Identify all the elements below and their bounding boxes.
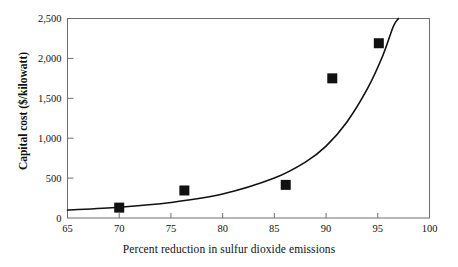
data-point-marker — [281, 180, 291, 190]
y-axis-title: Capital cost ($/kilowatt) — [17, 16, 29, 206]
x-axis-tick-labels: 65707580859095100 — [62, 223, 437, 234]
x-tick-label: 65 — [62, 223, 73, 234]
x-tick-label: 100 — [422, 223, 438, 234]
y-tick-label: 2,500 — [38, 13, 62, 24]
data-point-marker — [374, 38, 384, 48]
scatter-plot-svg: 65707580859095100 05001,0001,5002,0002,5… — [0, 0, 458, 267]
x-axis-ticks — [119, 213, 378, 218]
y-tick-label: 2,000 — [38, 53, 62, 64]
y-tick-label: 1,500 — [38, 93, 62, 104]
x-tick-label: 75 — [166, 223, 177, 234]
plot-frame — [68, 19, 430, 219]
y-axis-tick-labels: 05001,0001,5002,0002,500 — [38, 13, 62, 224]
x-tick-label: 80 — [217, 223, 228, 234]
x-axis-title: Percent reduction in sulfur dioxide emis… — [0, 243, 458, 255]
data-point-marker — [327, 73, 337, 83]
data-point-marker — [179, 185, 189, 195]
chart-figure: 65707580859095100 05001,0001,5002,0002,5… — [0, 0, 458, 267]
y-axis-ticks — [68, 58, 74, 178]
y-tick-label: 0 — [56, 213, 61, 224]
trend-curve — [68, 19, 399, 211]
x-tick-label: 90 — [321, 223, 332, 234]
y-tick-label: 500 — [46, 173, 62, 184]
x-tick-label: 95 — [373, 223, 384, 234]
x-tick-label: 85 — [269, 223, 280, 234]
data-point-marker — [114, 203, 124, 213]
fitted-curve — [68, 19, 399, 211]
y-tick-label: 1,000 — [38, 133, 62, 144]
x-tick-label: 70 — [114, 223, 125, 234]
